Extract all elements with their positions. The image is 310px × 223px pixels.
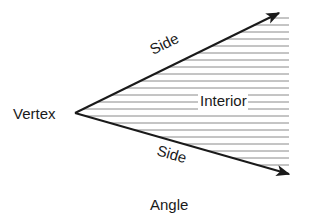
vertex-label: Vertex (13, 105, 56, 122)
upper-side-label: Side (147, 29, 181, 57)
interior-label: Interior (200, 92, 247, 109)
upper-side-ray (75, 13, 279, 113)
angle-diagram: Vertex Side Interior Side Angle (0, 0, 310, 223)
angle-title: Angle (150, 196, 188, 213)
lower-side-label: Side (155, 142, 189, 167)
